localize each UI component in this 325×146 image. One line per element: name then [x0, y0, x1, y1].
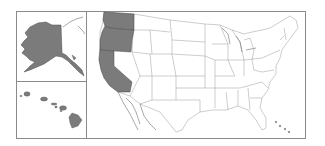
- island-molokai: [51, 103, 57, 105]
- state-oregon: [100, 26, 134, 52]
- island-niihau: [20, 95, 22, 97]
- state-alaska: [21, 22, 84, 76]
- hawaii-inset: [20, 92, 82, 128]
- island-hawaii: [69, 113, 82, 128]
- us-map: [0, 0, 325, 146]
- alaska-inset: [21, 17, 85, 76]
- island-maui: [60, 106, 67, 110]
- contiguous-us: [99, 12, 298, 133]
- island-kahoolawe: [60, 110, 62, 112]
- island-lanai: [55, 106, 57, 108]
- island-oahu: [41, 97, 48, 101]
- island-kauai: [24, 92, 30, 96]
